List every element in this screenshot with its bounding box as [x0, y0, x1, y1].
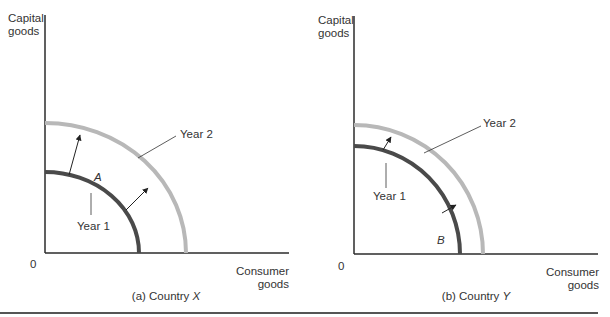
- ppf-figure: Capital goods Year 2 A Year 1 0 Consumer…: [0, 0, 610, 317]
- y-axis-label-line1: Capital: [8, 12, 44, 24]
- x-axis-label-line1: Consumer: [546, 266, 599, 278]
- origin-label: 0: [30, 258, 36, 270]
- year2-leader-line: [138, 136, 176, 158]
- year1-label: Year 1: [77, 220, 110, 232]
- shift-arrow-icon: [126, 188, 148, 210]
- y-axis-label-line2: goods: [318, 27, 350, 39]
- year2-label: Year 2: [180, 128, 213, 140]
- shift-arrow-icon: [69, 135, 80, 175]
- panel-caption: (b) Country Y: [442, 290, 512, 302]
- year2-leader-line: [424, 126, 481, 153]
- x-axis-label-line1: Consumer: [236, 265, 289, 277]
- x-axis-label-line2: goods: [568, 279, 600, 291]
- point-a-label: A: [93, 171, 102, 183]
- year2-label: Year 2: [483, 117, 516, 129]
- panel-b-country-y: Capital goods Year 2 Year 1 B 0 Consumer…: [318, 14, 599, 302]
- year1-ppf-curve: [45, 172, 139, 253]
- shift-arrow-icon: [383, 137, 391, 150]
- y-axis-label-line1: Capital: [318, 14, 354, 26]
- origin-label: 0: [338, 260, 344, 272]
- panel-a-country-x: Capital goods Year 2 A Year 1 0 Consumer…: [8, 12, 289, 302]
- y-axis-label-line2: goods: [8, 25, 40, 37]
- panel-caption: (a) Country X: [132, 290, 202, 302]
- x-axis-label-line2: goods: [258, 278, 290, 290]
- year1-label: Year 1: [373, 190, 406, 202]
- point-b-label: B: [437, 234, 445, 246]
